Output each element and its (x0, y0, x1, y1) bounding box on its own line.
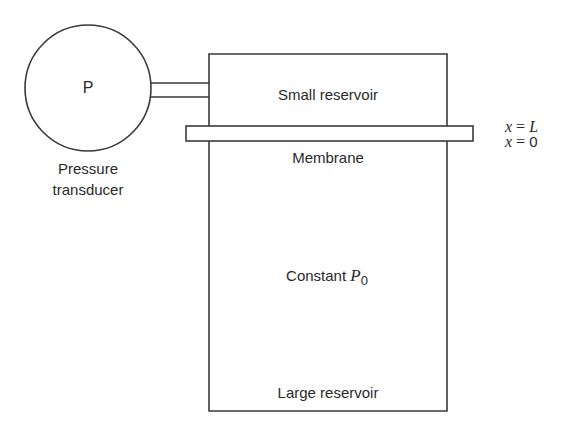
transducer-symbol: P (83, 79, 94, 97)
pressure-subscript: 0 (361, 273, 368, 288)
diagram-canvas (0, 0, 569, 439)
pressure-symbol: P (350, 266, 360, 285)
small-reservoir-label: Small reservoir (278, 86, 378, 103)
constant-word: Constant (286, 267, 346, 284)
eq-bottom: = (512, 133, 529, 150)
zero-val: 0 (529, 133, 537, 150)
membrane-bar (186, 126, 473, 141)
transducer-label-line1: Pressure (58, 160, 118, 177)
constant-pressure-label: Constant P0 (286, 266, 368, 288)
large-reservoir-label: Large reservoir (278, 384, 379, 401)
coordinate-x-equals-0: x = 0 (505, 134, 537, 149)
transducer-label-line2: transducer (53, 181, 124, 198)
membrane-label: Membrane (292, 149, 364, 166)
coordinate-x-equals-L: x = L (505, 119, 538, 134)
